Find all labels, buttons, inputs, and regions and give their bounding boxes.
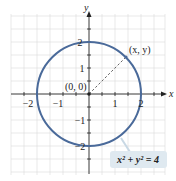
y-tick-label-2: 2 (78, 37, 83, 48)
equation-label: x² + y² = 4 (116, 154, 159, 165)
x-tick-label-neg2: −2 (23, 98, 34, 109)
y-tick-label-neg1: −1 (75, 115, 86, 126)
callout-pointer (121, 138, 130, 152)
y-axis-label: y (83, 2, 89, 13)
radius-line (89, 57, 126, 94)
x-tick-label-neg1: −1 (53, 98, 64, 109)
point-label: (x, y) (129, 44, 151, 56)
y-tick-label-1: 1 (80, 63, 85, 74)
x-axis-label: x (168, 88, 174, 99)
y-tick-label-neg2: −2 (75, 141, 86, 152)
x-tick-label-2: 2 (139, 98, 144, 109)
x-tick-label-1: 1 (113, 98, 118, 109)
origin-point (87, 92, 91, 96)
circle-plot: x y −2 −1 1 2 2 1 −1 −2 (0, 0) (x, y) x²… (0, 0, 176, 181)
origin-label: (0, 0) (65, 81, 87, 93)
point-xy (124, 55, 127, 58)
circle-figure: x y −2 −1 1 2 2 1 −1 −2 (0, 0) (x, y) x²… (0, 0, 176, 181)
x-axis-arrow-icon (161, 92, 167, 97)
